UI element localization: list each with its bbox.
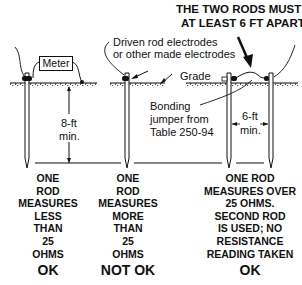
header-line-2: AT LEAST 6 FT APART bbox=[181, 17, 302, 30]
rod-electrode-1 bbox=[22, 73, 32, 168]
bonding-jumper bbox=[236, 72, 266, 78]
grade-label: Grade bbox=[180, 70, 211, 82]
column-3-verdict: OK bbox=[198, 262, 302, 278]
column-1-caption: ONE ROD MEASURES LESS THAN 25 OHMS bbox=[8, 172, 88, 260]
grade-line-1 bbox=[10, 83, 97, 86]
clamp-1 bbox=[22, 76, 32, 81]
meter-lead-right bbox=[72, 62, 82, 82]
rod-electrode-2 bbox=[122, 73, 129, 168]
bonding-label-1: Bonding bbox=[150, 100, 190, 112]
rod-electrode-3 bbox=[222, 73, 237, 168]
column-2-caption: ONE ROD MEASURES MORE THAN 25 OHMS bbox=[88, 172, 168, 260]
spacing-label-2: min. bbox=[240, 124, 261, 136]
column-3-caption: ONE ROD MEASURES OVER 25 OHMS. SECOND RO… bbox=[198, 172, 302, 260]
column-2-verdict: NOT OK bbox=[88, 262, 168, 278]
bonding-label-3: Table 250-94 bbox=[150, 126, 214, 138]
bonding-label-2: jumper from bbox=[150, 113, 209, 125]
meter-box: Meter bbox=[39, 56, 73, 71]
wire-left-top bbox=[15, 47, 24, 76]
column-1-verdict: OK bbox=[8, 262, 88, 278]
header-line-1: THE TWO RODS MUST BE bbox=[176, 3, 302, 16]
driven-rod-label-1: Driven rod electrodes bbox=[113, 36, 218, 48]
depth-label-1: 8-ft bbox=[61, 117, 77, 129]
depth-label-2: min. bbox=[59, 130, 80, 142]
driven-rod-label-2: or other made electrodes bbox=[113, 48, 235, 60]
spacing-label-1: 6-ft bbox=[242, 110, 258, 122]
rod-electrode-4 bbox=[264, 73, 273, 168]
arrow-head bbox=[243, 54, 253, 68]
